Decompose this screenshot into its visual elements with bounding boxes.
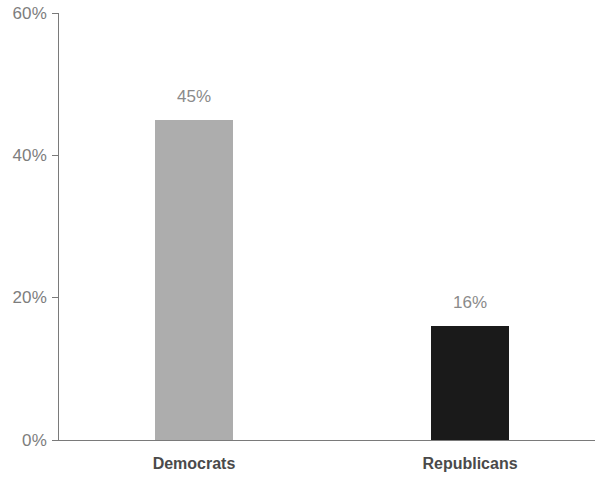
y-tick-mark-20: [52, 297, 59, 298]
y-tick-mark-0: [52, 440, 59, 441]
bar-chart: 60% 40% 20% 0% 45% Democrats 16% Republi…: [0, 0, 601, 487]
bar-republicans[interactable]: [431, 326, 509, 440]
bar-value-label-democrats: 45%: [155, 88, 233, 105]
bar-category-label-democrats: Democrats: [115, 456, 273, 472]
y-tick-label-60: 60%: [1, 5, 47, 22]
y-tick-label-0: 0%: [1, 432, 47, 449]
plot-area: 60% 40% 20% 0% 45% Democrats 16% Republi…: [0, 0, 601, 487]
y-axis-line: [58, 13, 59, 441]
bar-category-label-republicans: Republicans: [391, 456, 549, 472]
y-tick-label-20: 20%: [1, 289, 47, 306]
bar-democrats[interactable]: [155, 120, 233, 440]
y-tick-mark-60: [52, 13, 59, 14]
bar-value-label-republicans: 16%: [431, 294, 509, 311]
y-tick-mark-40: [52, 155, 59, 156]
y-tick-label-40: 40%: [1, 147, 47, 164]
x-axis-baseline: [58, 440, 595, 441]
